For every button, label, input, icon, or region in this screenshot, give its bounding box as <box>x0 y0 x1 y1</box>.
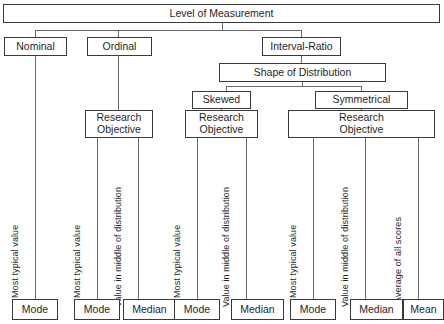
criterion-label-nominal-mode: Most typical value <box>10 225 20 298</box>
node-nominal: Nominal <box>4 37 67 56</box>
connector-root-spine <box>35 30 302 31</box>
criterion-label-skewed-mode: Most typical value <box>172 225 182 298</box>
node-ordinal: Ordinal <box>87 37 152 56</box>
node-measure-mode-symmetrical: Mode <box>290 299 336 320</box>
criterion-label-symmetrical-mode: Most typical value <box>288 225 298 298</box>
connector-root-stub <box>222 22 223 30</box>
node-symmetrical: Symmetrical <box>315 91 408 109</box>
node-measure-median-skewed: Median <box>231 299 284 320</box>
connector-ro-ordinal-to-mode <box>97 138 98 299</box>
node-label: Median <box>240 304 274 316</box>
connector-root-to-nominal <box>35 30 36 37</box>
node-label: Mode <box>184 304 210 316</box>
connector-nominal-to-mode <box>35 55 36 299</box>
node-interval-ratio: Interval-Ratio <box>262 37 341 56</box>
node-shape-of-distribution: Shape of Distribution <box>219 63 386 82</box>
node-research-objective-skewed: Research Objective <box>185 110 258 138</box>
criterion-label-skewed-median: Value in middle of distribution <box>221 187 231 307</box>
connector-ro-symmetrical-to-mean <box>418 138 419 299</box>
node-label: Interval-Ratio <box>270 41 332 53</box>
connector-ro-symmetrical-to-median <box>365 138 366 299</box>
connector-ordinal-to-ro <box>118 55 119 110</box>
node-measure-mode-skewed: Mode <box>174 299 220 320</box>
connector-ro-symmetrical-to-mode <box>313 138 314 299</box>
node-research-objective-ordinal: Research Objective <box>85 110 153 138</box>
node-label: Mean <box>410 304 436 316</box>
node-label: Mode <box>84 304 110 316</box>
criterion-label-symmetrical-median: Value in middle of distribution <box>340 187 350 307</box>
node-measure-mean-symmetrical: Mean <box>403 299 444 320</box>
node-label: Mode <box>22 304 48 316</box>
connector-shape-spine <box>226 86 362 87</box>
node-skewed: Skewed <box>192 91 251 109</box>
node-label: Median <box>359 304 393 316</box>
node-research-objective-symmetrical: Research Objective <box>288 110 435 138</box>
node-label: Median <box>132 304 166 316</box>
node-measure-median-symmetrical: Median <box>350 299 403 320</box>
node-label: Shape of Distribution <box>254 67 351 79</box>
criterion-label-ordinal-mode: Most typical value <box>72 225 82 298</box>
connector-root-to-ordinal <box>118 30 119 37</box>
node-label: Symmetrical <box>333 94 391 106</box>
node-measure-median-ordinal: Median <box>123 299 176 320</box>
connector-root-to-interval-ratio <box>301 30 302 37</box>
connector-ro-ordinal-to-median <box>138 138 139 299</box>
connector-ro-skewed-to-mode <box>197 138 198 299</box>
node-label: Nominal <box>16 41 55 53</box>
level-of-measurement-flowchart: Level of Measurement Nominal Ordinal Int… <box>0 0 444 324</box>
node-label: Skewed <box>203 94 240 106</box>
node-measure-mode-nominal: Mode <box>12 299 58 320</box>
node-label: Ordinal <box>103 41 137 53</box>
criterion-label-symmetrical-mean: Average of all scores <box>393 217 403 303</box>
node-level-of-measurement: Level of Measurement <box>3 4 440 23</box>
node-label: Research Objective <box>199 112 244 136</box>
node-label: Research Objective <box>339 112 384 136</box>
node-label: Research Objective <box>97 112 142 136</box>
node-label: Level of Measurement <box>170 8 274 20</box>
node-measure-mode-ordinal: Mode <box>74 299 120 320</box>
node-label: Mode <box>300 304 326 316</box>
connector-ro-skewed-to-median <box>246 138 247 299</box>
criterion-label-ordinal-median: Value in middle of distribution <box>113 187 123 307</box>
